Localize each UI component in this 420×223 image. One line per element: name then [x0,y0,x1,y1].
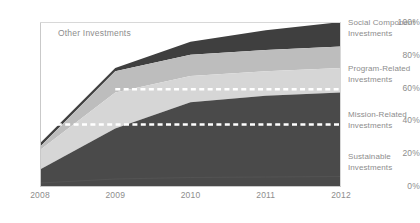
legend-item-program-related: Program-Related Investments [348,64,420,85]
x-axis-tick-2008: 2008 [17,190,63,200]
legend-label-line2: Investments [348,163,420,174]
x-axis-tick-2012: 2012 [318,190,364,200]
legend-label-line1: Mission-Related [348,110,420,121]
legend-item-sustainable: Sustainable Investments [348,152,420,173]
other-investments-label: Other Investments [58,28,131,38]
legend-item-mission-related: Mission-Related Investments [348,110,420,131]
legend-label-line2: Investments [348,121,420,132]
legend-label-line1: Sustainable [348,152,420,163]
x-axis-tick-2009: 2009 [92,190,138,200]
legend-item-social-component: Social Component Investments [348,18,420,39]
legend-label-line2: Investments [348,75,420,86]
legend-label-line1: Program-Related [348,64,420,75]
x-axis-tick-2010: 2010 [168,190,214,200]
legend-label-line1: Social Component [348,18,420,29]
x-axis-tick-2011: 2011 [243,190,289,200]
legend-label-line2: Investments [348,29,420,40]
stacked-area-chart: 100% 80% 60% 40% 20% 0% Other Investmen [0,0,420,223]
